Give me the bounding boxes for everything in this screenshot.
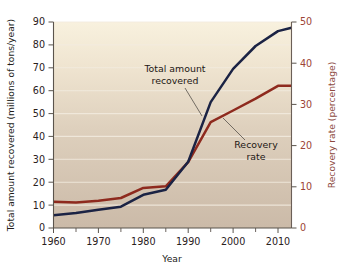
y2-axis-title: Recovery rate (percentage): [326, 62, 337, 189]
ytick-label: 10: [33, 200, 45, 211]
ytick-label: 70: [33, 62, 45, 73]
recovery-line-chart: 90 80 70 60 50 40 30 20 10 0 Total amoun…: [0, 0, 347, 280]
ytick-label: 50: [33, 108, 45, 119]
xtick-label: 2010: [266, 236, 290, 247]
ytick-label: 60: [33, 85, 45, 96]
y2tick-label: 10: [300, 181, 312, 192]
ytick-label: 80: [33, 39, 45, 50]
ytick-label: 20: [33, 177, 45, 188]
annotation-total-amount-line2: recovered: [152, 75, 199, 86]
xtick-label: 2000: [221, 236, 245, 247]
plot-background: [54, 22, 292, 228]
y2tick-label: 20: [300, 140, 312, 151]
right-axis: 50 40 30 20 10 0 Recovery rate (percenta…: [292, 16, 338, 233]
chart-figure: 90 80 70 60 50 40 30 20 10 0 Total amoun…: [0, 0, 347, 280]
y2tick-label: 30: [300, 99, 312, 110]
ytick-label: 0: [39, 222, 45, 233]
xtick-label: 1990: [176, 236, 200, 247]
y2tick-label: 50: [300, 16, 312, 27]
xtick-label: 1960: [41, 236, 65, 247]
y-axis-title: Total amount recovered (millions of tons…: [5, 19, 16, 232]
left-axis: 90 80 70 60 50 40 30 20 10 0 Total amoun…: [5, 16, 54, 233]
y2tick-label: 0: [300, 222, 306, 233]
y2tick-label: 40: [300, 58, 312, 69]
ytick-label: 40: [33, 131, 45, 142]
x-axis: 1960 1970 1980 1990 2000 2010 Year: [41, 228, 291, 264]
ytick-label: 30: [33, 154, 45, 165]
ytick-label: 90: [33, 16, 45, 27]
annotation-recovery-rate-line2: rate: [246, 151, 265, 162]
xtick-label: 1980: [131, 236, 155, 247]
annotation-recovery-rate-line1: Recovery: [234, 139, 278, 150]
annotation-total-amount-line1: Total amount: [143, 63, 205, 74]
x-axis-title: Year: [161, 253, 182, 264]
xtick-label: 1970: [86, 236, 110, 247]
